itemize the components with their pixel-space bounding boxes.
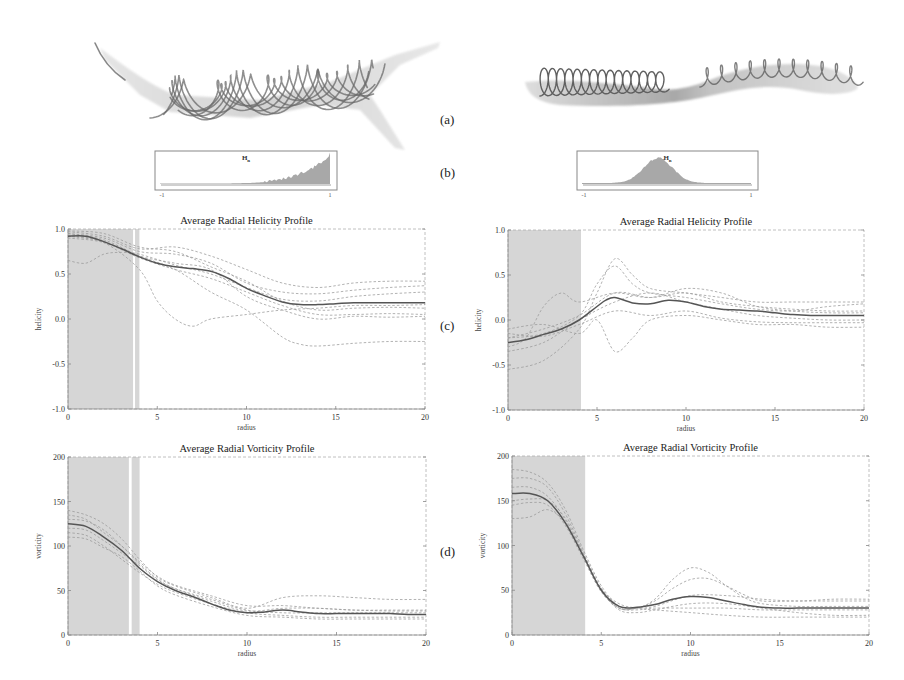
x-axis-label: radius xyxy=(238,649,256,658)
histogram-left: Hn-11 xyxy=(155,151,337,198)
y-tick-label: 1.0 xyxy=(495,226,505,235)
x-tick-label: 0 xyxy=(66,413,70,422)
x-tick-label: 5 xyxy=(155,413,159,422)
figure: Hn-11Hn-11 05101520-1.0-0.50.00.51.0Aver… xyxy=(0,0,904,680)
core-region-shade xyxy=(68,229,136,409)
x-axis-label: radius xyxy=(681,649,699,658)
histogram-right: Hn-11 xyxy=(577,151,758,198)
panel-label-d: (d) xyxy=(440,544,455,560)
y-tick-label: 0 xyxy=(61,631,65,640)
x-tick-label: 20 xyxy=(865,639,873,648)
x-tick-label: 10 xyxy=(682,414,690,423)
y-tick-label: 100 xyxy=(53,542,65,551)
x-tick-label: 10 xyxy=(687,639,695,648)
y-tick-label: 50 xyxy=(57,587,65,596)
x-tick-label: 0 xyxy=(66,639,70,648)
panel-label-b: (b) xyxy=(440,165,455,181)
y-tick-label: -1.0 xyxy=(52,405,65,414)
y-tick-label: 150 xyxy=(497,497,509,506)
y-axis-label: vorticity xyxy=(478,533,487,559)
core-region-shade xyxy=(512,456,585,635)
x-tick-label: 0 xyxy=(506,414,510,423)
y-tick-label: 0.0 xyxy=(55,315,65,324)
chart-d-right: 05101520050100150200Average Radial Vorti… xyxy=(478,442,873,658)
y-tick-label: 50 xyxy=(501,586,509,595)
y-axis-label: vorticity xyxy=(34,533,43,559)
panel-label-c: (c) xyxy=(440,318,454,334)
y-tick-label: 100 xyxy=(497,542,509,551)
y-tick-label: 0.0 xyxy=(495,316,505,325)
panel-label-a: (a) xyxy=(440,112,454,128)
x-tick-label: 5 xyxy=(599,639,603,648)
y-axis-label: helicity xyxy=(474,309,483,332)
x-tick-label: 20 xyxy=(421,413,429,422)
x-tick-label: 10 xyxy=(243,639,251,648)
y-tick-label: 150 xyxy=(53,498,65,507)
x-axis-label: radius xyxy=(677,424,695,433)
chart-d-left: 05101520050100150200Average Radial Vorti… xyxy=(34,443,430,658)
chart-title: Average Radial Vorticity Profile xyxy=(623,442,758,453)
histogram-tick-max: 1 xyxy=(329,192,332,198)
y-tick-label: -0.5 xyxy=(52,360,65,369)
histogram-tick-min: -1 xyxy=(160,192,165,198)
histogram-tick-min: -1 xyxy=(582,192,587,198)
x-tick-label: 0 xyxy=(510,639,514,648)
y-tick-label: 0 xyxy=(505,631,509,640)
x-tick-label: 5 xyxy=(595,414,599,423)
chart-title: Average Radial Helicity Profile xyxy=(180,215,313,226)
y-tick-label: 200 xyxy=(497,452,509,461)
x-tick-label: 15 xyxy=(776,639,784,648)
core-region-shade xyxy=(68,457,129,635)
x-tick-label: 15 xyxy=(771,414,779,423)
chart-title: Average Radial Vorticity Profile xyxy=(179,443,314,454)
vortex-visualization-left xyxy=(95,42,440,150)
y-axis-label: helicity xyxy=(34,308,43,331)
chart-title: Average Radial Helicity Profile xyxy=(620,216,753,227)
y-tick-label: -1.0 xyxy=(492,406,505,415)
chart-c-right: 05101520-1.0-0.50.00.51.0Average Radial … xyxy=(474,216,868,433)
vortex-visualization-right xyxy=(525,59,863,106)
x-tick-label: 20 xyxy=(860,414,868,423)
y-tick-label: -0.5 xyxy=(492,361,505,370)
y-tick-label: 200 xyxy=(53,453,65,462)
x-axis-label: radius xyxy=(237,423,255,432)
x-tick-label: 20 xyxy=(422,639,430,648)
figure-canvas: Hn-11Hn-11 05101520-1.0-0.50.00.51.0Aver… xyxy=(0,0,904,680)
y-tick-label: 0.5 xyxy=(495,271,505,280)
x-tick-label: 15 xyxy=(333,639,341,648)
x-tick-label: 5 xyxy=(156,639,160,648)
chart-c-left: 05101520-1.0-0.50.00.51.0Average Radial … xyxy=(34,215,429,432)
y-tick-label: 1.0 xyxy=(55,225,65,234)
histogram-tick-max: 1 xyxy=(750,192,753,198)
y-tick-label: 0.5 xyxy=(55,270,65,279)
x-tick-label: 15 xyxy=(332,413,340,422)
x-tick-label: 10 xyxy=(243,413,251,422)
